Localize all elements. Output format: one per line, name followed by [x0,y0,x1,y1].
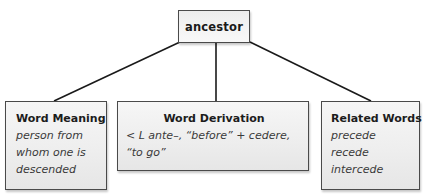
related-words-box: Related Words precede recede intercede [321,101,420,190]
word-meaning-line: descended [16,161,100,178]
word-derivation-line: < L ante–, “before” + cedere, [126,127,302,144]
related-word-item: precede [331,127,415,144]
word-meaning-box: Word Meaning person from whom one is des… [5,101,107,190]
word-meaning-line: person from [16,127,100,144]
root-word-label: ancestor [185,20,243,34]
word-meaning-heading: Word Meaning [16,111,100,126]
word-derivation-box: Word Derivation < L ante–, “before” + ce… [117,101,309,171]
connector-root-to-meaning [54,42,180,101]
word-derivation-line: “to go” [126,144,302,161]
related-word-item: recede [331,144,415,161]
related-words-heading: Related Words [331,111,415,126]
word-derivation-heading: Word Derivation [126,111,302,126]
word-map-diagram: ancestor Word Meaning person from whom o… [0,0,424,195]
connector-root-to-related [250,42,371,101]
root-word-box: ancestor [178,10,250,43]
word-meaning-line: whom one is [16,144,100,161]
related-word-item: intercede [331,161,415,178]
